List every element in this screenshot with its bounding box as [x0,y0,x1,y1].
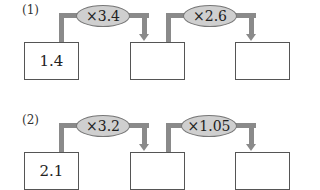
start-value-box: 1.4 [24,42,79,80]
start-value-box: 2.1 [24,152,79,190]
arrow-down-icon [246,34,256,41]
operation-bubble: ×3.2 [76,115,130,137]
answer-box[interactable] [130,42,185,80]
answer-box[interactable] [130,152,185,190]
operation-bubble: ×1.05 [181,115,237,137]
arrow-down-icon [246,144,256,151]
arrow-down-icon [139,34,149,41]
operation-bubble: ×3.4 [76,5,130,27]
problem-label: (1) [22,3,39,17]
operation-bubble: ×2.6 [183,5,237,27]
connector-line [249,13,254,35]
connector-line [249,123,254,145]
answer-box[interactable] [235,152,290,190]
answer-box[interactable] [235,42,290,80]
problem-label: (2) [22,113,39,127]
arrow-down-icon [139,144,149,151]
connector-line [142,123,147,145]
connector-line [142,13,147,35]
